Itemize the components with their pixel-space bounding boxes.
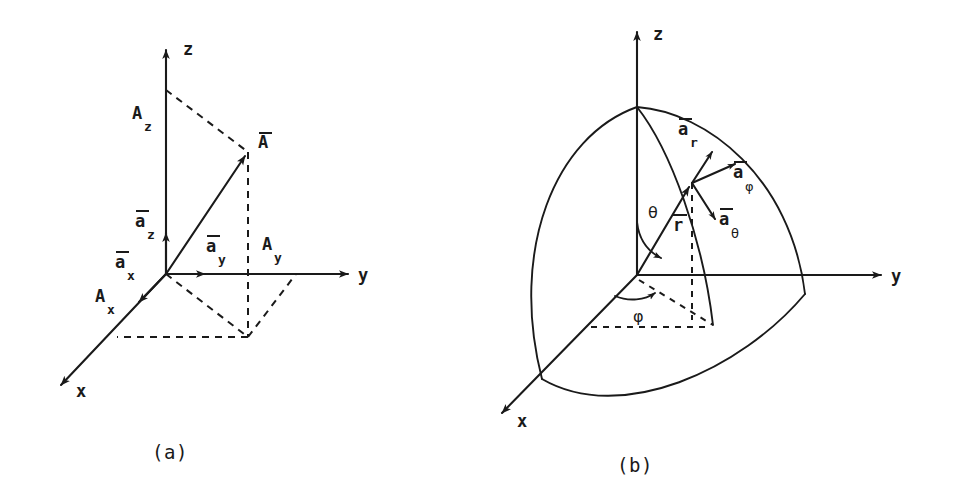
x-axis-label-a: x <box>76 381 86 401</box>
unit-vector-ay-label: a y <box>206 236 226 267</box>
arc-xz-meridian <box>531 107 637 379</box>
component-Ax-subscript: x <box>107 302 115 317</box>
dash-origin-to-projection <box>639 280 713 325</box>
vector-A-label: A <box>258 132 272 152</box>
unit-az-letter: a <box>135 211 145 231</box>
x-axis-label-b: x <box>517 411 527 431</box>
component-Ay-label: A y <box>262 234 282 265</box>
unit-vector-atheta-label: a θ <box>719 209 739 241</box>
unit-ay-subscript: y <box>218 252 226 267</box>
component-Ay-subscript: y <box>274 250 282 265</box>
z-axis-label-a: z <box>183 39 193 59</box>
arc-yz-meridian <box>637 107 805 294</box>
theta-label: θ <box>648 203 658 222</box>
vector-A-letter: A <box>258 132 268 152</box>
dash-projection-to-yaxis <box>248 274 296 337</box>
phi-label: φ <box>633 307 644 326</box>
unit-atheta-letter: a <box>719 209 729 229</box>
component-Ay-letter: A <box>262 234 272 254</box>
y-axis-label-b: y <box>891 266 901 286</box>
component-Ax-label: A x <box>95 286 115 317</box>
vector-r-letter: r <box>673 215 683 235</box>
unit-vector-az-label: a z <box>135 211 155 242</box>
position-vector-r-label: r <box>673 215 687 235</box>
component-Ax-letter: A <box>95 286 105 306</box>
unit-ax-letter: a <box>115 252 125 272</box>
unit-aphi-letter: a <box>733 162 743 182</box>
unit-atheta-subscript: θ <box>731 226 739 241</box>
sphere-octant-outline <box>531 107 805 396</box>
phi-angle-arc <box>615 293 655 300</box>
dash-origin-to-projection <box>166 274 248 337</box>
unit-vector-atheta-arrow <box>692 183 715 219</box>
unit-ax-subscript: x <box>127 268 135 283</box>
panel-a-rectangular-coordinates: z y x A z A y A x A a z <box>0 0 481 500</box>
arc-xy-equator <box>542 294 805 396</box>
caption-b: (b) <box>617 454 653 476</box>
dash-az-to-tip <box>166 90 248 152</box>
component-Az-letter: A <box>132 103 142 123</box>
caption-a: (a) <box>152 441 188 463</box>
unit-vector-ax-arrow <box>139 274 166 302</box>
component-Az-subscript: z <box>144 119 152 134</box>
y-axis-label-a: y <box>358 265 368 285</box>
unit-aphi-subscript: φ <box>745 179 754 194</box>
unit-ar-letter: a <box>678 119 688 139</box>
vector-A-line <box>166 156 245 274</box>
figure-canvas: z y x A z A y A x A a z <box>0 0 962 500</box>
unit-az-subscript: z <box>147 227 155 242</box>
unit-ay-letter: a <box>206 236 216 256</box>
component-Az-label: A z <box>132 103 152 134</box>
unit-ar-subscript: r <box>690 135 698 150</box>
z-axis-label-b: z <box>653 24 663 44</box>
unit-vector-ax-label: a x <box>115 252 135 283</box>
panel-b-spherical-coordinates: z y x θ φ r a r a φ a θ (b) <box>481 0 962 500</box>
vector-A-arrow <box>166 156 245 274</box>
